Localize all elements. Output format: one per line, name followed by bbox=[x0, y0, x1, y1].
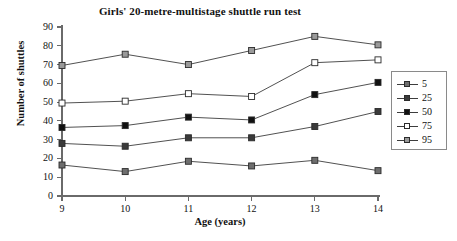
data-point-marker bbox=[185, 114, 191, 120]
legend-label: 95 bbox=[418, 135, 432, 145]
data-point-marker bbox=[375, 109, 381, 115]
series-line bbox=[62, 112, 378, 147]
data-point-marker bbox=[249, 135, 255, 141]
y-tick-label: 30 bbox=[31, 134, 53, 145]
legend-marker-icon bbox=[397, 94, 418, 103]
data-point-marker bbox=[312, 60, 318, 66]
legend-marker-icon bbox=[397, 122, 418, 131]
x-tick-label: 10 bbox=[113, 203, 137, 214]
legend-item-50[interactable]: 50 bbox=[392, 105, 446, 119]
data-point-marker bbox=[185, 158, 191, 164]
chart-legend: 525507595 bbox=[391, 71, 447, 150]
legend-label: 5 bbox=[418, 79, 427, 89]
data-point-marker bbox=[59, 162, 65, 168]
data-point-marker bbox=[312, 33, 318, 39]
data-point-marker bbox=[249, 117, 255, 123]
x-tick-label: 14 bbox=[366, 203, 390, 214]
data-point-marker bbox=[59, 124, 65, 130]
y-tick-label: 70 bbox=[31, 59, 53, 70]
data-point-marker bbox=[185, 91, 191, 97]
y-tick-label: 40 bbox=[31, 115, 53, 126]
series-lines bbox=[59, 33, 381, 174]
data-point-marker bbox=[185, 135, 191, 141]
y-tick-label: 80 bbox=[31, 40, 53, 51]
legend-marker-icon bbox=[397, 108, 418, 117]
data-point-marker bbox=[375, 79, 381, 85]
legend-marker-icon bbox=[397, 136, 418, 145]
data-point-marker bbox=[122, 51, 128, 57]
legend-label: 75 bbox=[418, 121, 432, 131]
series-line bbox=[62, 82, 378, 127]
data-point-marker bbox=[122, 98, 128, 104]
legend-item-75[interactable]: 75 bbox=[392, 119, 446, 133]
legend-marker-icon bbox=[397, 80, 418, 89]
data-point-marker bbox=[312, 92, 318, 98]
y-tick-label: 50 bbox=[31, 96, 53, 107]
x-tick-label: 12 bbox=[240, 203, 264, 214]
data-point-marker bbox=[59, 140, 65, 146]
x-tick-label: 11 bbox=[176, 203, 200, 214]
series-line bbox=[62, 160, 378, 171]
legend-item-25[interactable]: 25 bbox=[392, 91, 446, 105]
y-tick-label: 20 bbox=[31, 152, 53, 163]
data-point-marker bbox=[122, 123, 128, 129]
data-point-marker bbox=[249, 47, 255, 53]
series-line bbox=[62, 36, 378, 65]
y-tick-label: 90 bbox=[31, 21, 53, 32]
data-point-marker bbox=[249, 93, 255, 99]
data-point-marker bbox=[249, 163, 255, 169]
x-tick-label: 13 bbox=[303, 203, 327, 214]
y-tick-label: 0 bbox=[31, 190, 53, 201]
data-point-marker bbox=[312, 157, 318, 163]
y-tick-label: 10 bbox=[31, 171, 53, 182]
data-point-marker bbox=[122, 169, 128, 175]
axis-lines bbox=[57, 25, 380, 201]
data-point-marker bbox=[59, 62, 65, 68]
legend-item-5[interactable]: 5 bbox=[392, 77, 446, 91]
data-point-marker bbox=[375, 42, 381, 48]
x-tick-label: 9 bbox=[50, 203, 74, 214]
legend-item-95[interactable]: 95 bbox=[392, 133, 446, 147]
data-point-marker bbox=[375, 57, 381, 63]
data-point-marker bbox=[312, 124, 318, 130]
data-point-marker bbox=[185, 62, 191, 68]
data-point-marker bbox=[59, 100, 65, 106]
series-line bbox=[62, 60, 378, 103]
data-point-marker bbox=[122, 143, 128, 149]
data-point-marker bbox=[375, 168, 381, 174]
chart-container: Girls' 20-metre-multistage shuttle run t… bbox=[0, 0, 457, 241]
legend-label: 25 bbox=[418, 93, 432, 103]
legend-label: 50 bbox=[418, 107, 432, 117]
y-tick-label: 60 bbox=[31, 77, 53, 88]
